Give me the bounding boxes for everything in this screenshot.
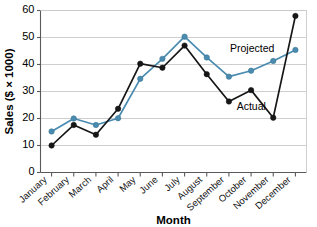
y-axis-tick-label: 40 <box>22 57 34 69</box>
data-point-projected[interactable] <box>182 34 187 39</box>
data-point-actual[interactable] <box>293 13 298 18</box>
data-point-actual[interactable] <box>271 115 276 120</box>
data-point-actual[interactable] <box>226 99 231 104</box>
data-point-actual[interactable] <box>49 143 54 148</box>
data-point-actual[interactable] <box>160 65 165 70</box>
y-axis-tick-label: 30 <box>22 84 34 96</box>
projected-label: Projected <box>230 42 275 54</box>
x-axis-tick-label: June <box>137 174 160 196</box>
data-point-actual[interactable] <box>248 87 253 92</box>
data-point-projected[interactable] <box>115 116 120 121</box>
data-point-projected[interactable] <box>71 116 76 121</box>
x-axis-tick-label: April <box>94 174 115 195</box>
data-point-projected[interactable] <box>226 74 231 79</box>
data-point-projected[interactable] <box>138 76 143 81</box>
data-point-projected[interactable] <box>93 122 98 127</box>
sales-line-chart: 0102030405060JanuaryFebruaryMarchAprilMa… <box>0 0 317 227</box>
data-point-projected[interactable] <box>271 58 276 63</box>
data-point-projected[interactable] <box>204 55 209 60</box>
actual-label: Actual <box>237 100 266 112</box>
data-point-projected[interactable] <box>160 56 165 61</box>
chart-container: 0102030405060JanuaryFebruaryMarchAprilMa… <box>0 0 317 227</box>
x-axis-title: Month <box>156 214 190 226</box>
data-point-projected[interactable] <box>293 47 298 52</box>
data-point-actual[interactable] <box>182 43 187 48</box>
series-line-actual <box>52 16 296 146</box>
y-axis-title: Sales ($ × 1000) <box>3 48 15 134</box>
x-axis-tick-label: May <box>117 174 138 194</box>
y-axis-tick-label: 0 <box>28 165 34 177</box>
data-point-projected[interactable] <box>248 68 253 73</box>
data-point-actual[interactable] <box>93 132 98 137</box>
y-axis-tick-label: 60 <box>22 3 34 15</box>
data-point-actual[interactable] <box>138 61 143 66</box>
data-point-actual[interactable] <box>71 122 76 127</box>
data-point-projected[interactable] <box>49 129 54 134</box>
x-axis-tick-label: March <box>66 174 93 200</box>
data-point-actual[interactable] <box>115 106 120 111</box>
y-axis-tick-label: 20 <box>22 111 34 123</box>
data-point-actual[interactable] <box>204 72 209 77</box>
y-axis-tick-label: 50 <box>22 30 34 42</box>
y-axis-tick-label: 10 <box>22 138 34 150</box>
